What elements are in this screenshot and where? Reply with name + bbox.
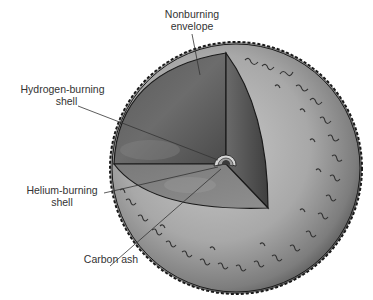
label-line: Carbon ash — [78, 253, 144, 265]
label-hydrogen-burning-shell: Hydrogen-burning shell — [15, 83, 110, 107]
star-cutaway-diagram — [0, 0, 373, 300]
label-carbon-ash: Carbon ash — [78, 253, 144, 265]
label-line: Helium-burning — [20, 184, 104, 196]
label-helium-burning-shell: Helium-burning shell — [20, 184, 104, 208]
label-line: Nonburning — [157, 8, 227, 20]
label-line: Hydrogen-burning — [15, 83, 110, 95]
label-line: shell — [20, 196, 104, 208]
label-line: envelope — [157, 20, 227, 32]
label-line: shell — [15, 95, 110, 107]
label-nonburning-envelope: Nonburning envelope — [157, 8, 227, 32]
